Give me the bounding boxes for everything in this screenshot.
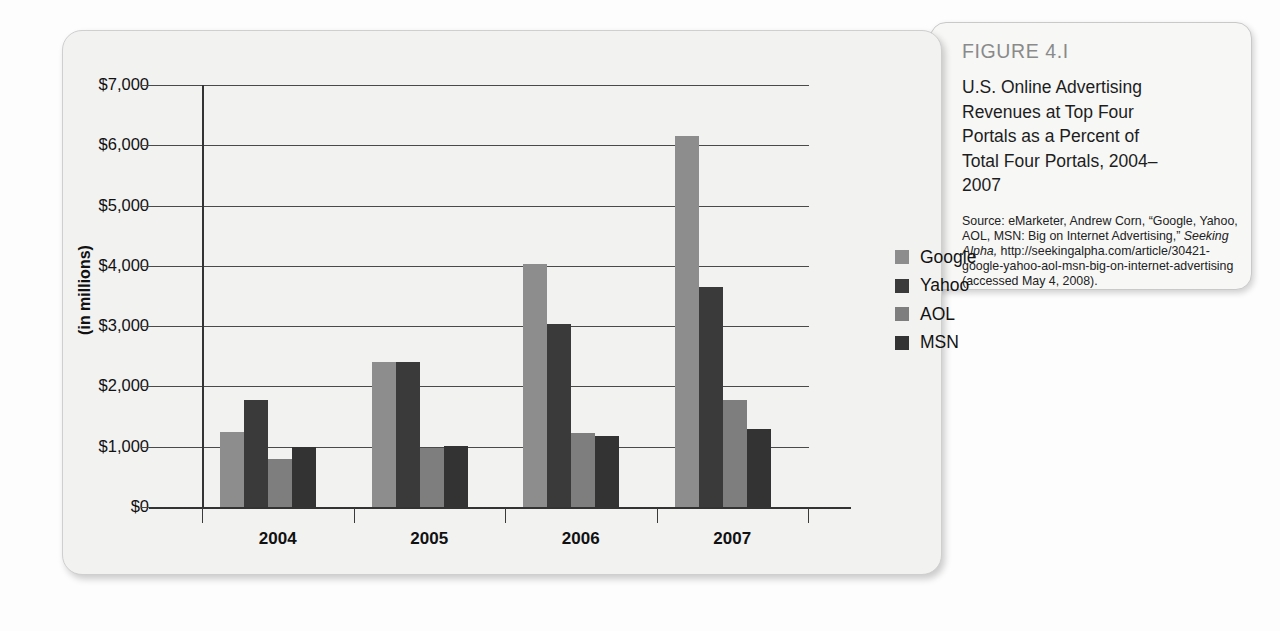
legend-item-aol: AOL bbox=[895, 300, 1000, 329]
x-axis-tick-mark bbox=[505, 508, 506, 523]
legend-swatch-icon bbox=[895, 307, 909, 321]
y-axis-tick-label: $5,000 bbox=[77, 196, 149, 215]
bar-aol-2007 bbox=[723, 400, 747, 507]
y-axis-tick-label: $6,000 bbox=[77, 135, 149, 154]
y-axis-tick-label: $1,000 bbox=[77, 437, 149, 456]
y-axis-tick-label: $3,000 bbox=[77, 316, 149, 335]
legend-swatch-icon bbox=[895, 279, 909, 293]
bar-yahoo-2005 bbox=[396, 362, 420, 507]
bar-group bbox=[505, 85, 657, 507]
bar-aol-2005 bbox=[420, 448, 444, 507]
x-axis-label-2007: 2007 bbox=[672, 529, 792, 549]
chart-card: (in millions) $0$1,000$2,000$3,000$4,000… bbox=[62, 30, 942, 575]
bar-yahoo-2007 bbox=[699, 287, 723, 507]
chart-bars bbox=[202, 85, 808, 507]
bar-google-2004 bbox=[220, 432, 244, 507]
x-axis-line bbox=[149, 507, 851, 509]
y-axis-tick-label: $2,000 bbox=[77, 376, 149, 395]
legend-item-msn: MSN bbox=[895, 329, 1000, 358]
x-axis-label-2006: 2006 bbox=[521, 529, 641, 549]
legend-label: MSN bbox=[920, 332, 959, 353]
x-axis-tick-mark bbox=[202, 508, 203, 523]
y-axis-labels: $0$1,000$2,000$3,000$4,000$5,000$6,000$7… bbox=[63, 31, 149, 576]
figure-caption-content: FIGURE 4.I U.S. Online Advertising Reven… bbox=[962, 40, 1252, 290]
y-axis-tick-label: $4,000 bbox=[77, 256, 149, 275]
legend-label: Yahoo bbox=[920, 275, 969, 296]
bar-google-2005 bbox=[372, 362, 396, 507]
bar-google-2007 bbox=[675, 136, 699, 507]
bar-msn-2006 bbox=[595, 436, 619, 507]
y-axis-tick-label: $7,000 bbox=[77, 75, 149, 94]
x-axis-tick-mark bbox=[657, 508, 658, 523]
bar-msn-2005 bbox=[444, 446, 468, 507]
bar-msn-2004 bbox=[292, 447, 316, 507]
bar-yahoo-2004 bbox=[244, 400, 268, 507]
bar-google-2006 bbox=[523, 264, 547, 507]
page-canvas: FIGURE 4.I U.S. Online Advertising Reven… bbox=[0, 0, 1280, 631]
bar-msn-2007 bbox=[747, 429, 771, 507]
x-axis-label-2005: 2005 bbox=[369, 529, 489, 549]
figure-number-label: FIGURE 4.I bbox=[962, 40, 1252, 63]
legend-label: Google bbox=[920, 247, 976, 268]
source-text-part-2: http://seekingalpha.com/article/30421-go… bbox=[962, 244, 1233, 288]
x-axis-label-2004: 2004 bbox=[218, 529, 338, 549]
legend-swatch-icon bbox=[895, 336, 909, 350]
y-axis-tick-label: $0 bbox=[77, 497, 149, 516]
legend-item-yahoo: Yahoo bbox=[895, 272, 1000, 301]
figure-source-note: Source: eMarketer, Andrew Corn, “Google,… bbox=[962, 214, 1238, 290]
x-axis-tick-mark bbox=[808, 508, 809, 523]
chart-legend: GoogleYahooAOLMSN bbox=[895, 243, 1000, 357]
bar-group bbox=[202, 85, 354, 507]
legend-item-google: Google bbox=[895, 243, 1000, 272]
bar-aol-2004 bbox=[268, 459, 292, 507]
figure-title: U.S. Online Advertising Revenues at Top … bbox=[962, 75, 1177, 198]
bar-yahoo-2006 bbox=[547, 324, 571, 507]
bar-aol-2006 bbox=[571, 433, 595, 507]
legend-label: AOL bbox=[920, 304, 955, 325]
x-axis-tick-mark bbox=[354, 508, 355, 523]
legend-swatch-icon bbox=[895, 250, 909, 264]
bar-group bbox=[657, 85, 809, 507]
bar-chart: (in millions) $0$1,000$2,000$3,000$4,000… bbox=[63, 31, 943, 576]
bar-group bbox=[354, 85, 506, 507]
